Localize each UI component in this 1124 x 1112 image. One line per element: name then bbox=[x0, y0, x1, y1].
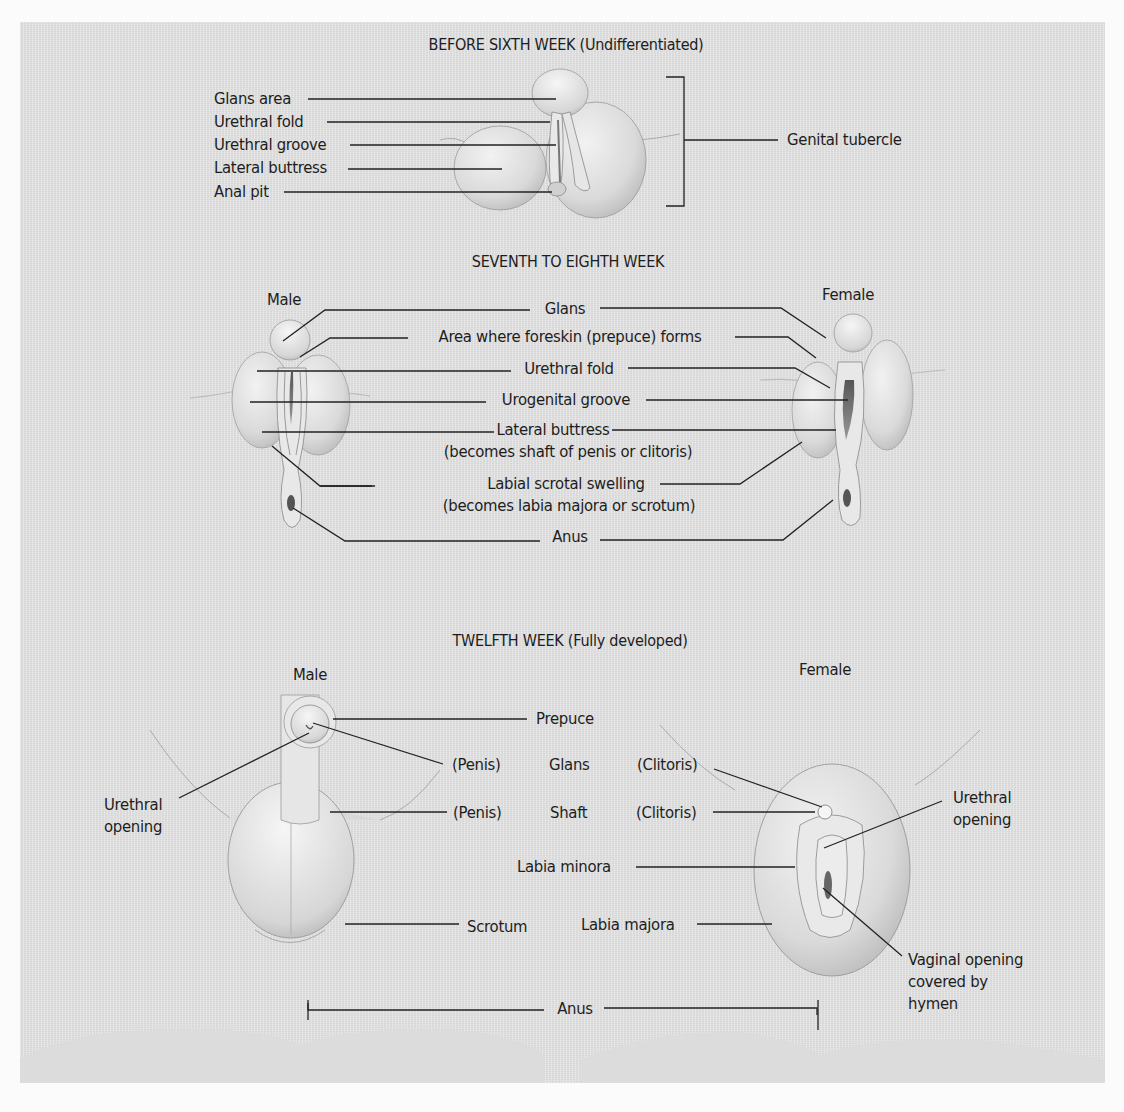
label-vaginal-opening-line1: Vaginal opening bbox=[908, 949, 1023, 971]
label-vaginal-opening-line3: hymen bbox=[908, 993, 1023, 1015]
label-male-twelfth: Male bbox=[293, 666, 327, 684]
label-urethral-opening-male-line2: opening bbox=[104, 816, 162, 838]
seventh-week-male-illustration bbox=[190, 320, 370, 528]
label-vaginal-opening-line2: covered by bbox=[908, 971, 1023, 993]
label-female-seventh: Female bbox=[822, 286, 874, 304]
section-title-undifferentiated: BEFORE SIXTH WEEK (Undifferentiated) bbox=[429, 36, 704, 54]
label-labial-scrotal-note: (becomes labia majora or scrotum) bbox=[443, 497, 695, 515]
twelfth-week-male-illustration bbox=[20, 695, 545, 1083]
label-anal-pit: Anal pit bbox=[214, 183, 269, 201]
label-vaginal-opening: Vaginal opening covered by hymen bbox=[908, 949, 1023, 1015]
label-lateral-buttress-seventh: Lateral buttress bbox=[496, 421, 609, 439]
label-penis-shaft: (Penis) bbox=[453, 804, 502, 822]
label-glans-twelfth: Glans bbox=[549, 756, 590, 774]
undifferentiated-illustration bbox=[440, 69, 680, 218]
label-urethral-opening-female-line1: Urethral bbox=[953, 787, 1011, 809]
label-lateral-buttress: Lateral buttress bbox=[214, 159, 327, 177]
label-labia-majora: Labia majora bbox=[581, 916, 675, 934]
label-urethral-opening-male: Urethral opening bbox=[104, 794, 162, 838]
label-glans: Glans bbox=[545, 300, 586, 318]
label-shaft: Shaft bbox=[550, 804, 587, 822]
label-anus-twelfth: Anus bbox=[557, 1000, 593, 1018]
label-clitoris-glans: (Clitoris) bbox=[637, 756, 697, 774]
label-urethral-groove: Urethral groove bbox=[214, 136, 326, 154]
seventh-week-female-illustration bbox=[760, 314, 945, 526]
label-scrotum: Scrotum bbox=[467, 918, 527, 936]
label-labial-scrotal-swelling: Labial scrotal swelling bbox=[487, 475, 645, 493]
label-prepuce: Prepuce bbox=[536, 710, 594, 728]
label-male-seventh: Male bbox=[267, 291, 301, 309]
label-urethral-opening-female: Urethral opening bbox=[953, 787, 1011, 831]
label-urethral-opening-male-line1: Urethral bbox=[104, 794, 162, 816]
label-penis-glans: (Penis) bbox=[452, 756, 501, 774]
label-prepuce-area: Area where foreskin (prepuce) forms bbox=[439, 328, 702, 346]
diagram-artwork bbox=[0, 0, 1124, 1112]
label-urethral-fold-seventh: Urethral fold bbox=[524, 360, 613, 378]
label-genital-tubercle: Genital tubercle bbox=[787, 131, 902, 149]
section-title-twelfth: TWELFTH WEEK (Fully developed) bbox=[452, 632, 687, 650]
label-labia-minora: Labia minora bbox=[517, 858, 611, 876]
label-glans-area: Glans area bbox=[214, 90, 291, 108]
label-urogenital-groove: Urogenital groove bbox=[502, 391, 630, 409]
label-clitoris-shaft: (Clitoris) bbox=[636, 804, 696, 822]
label-anus-seventh: Anus bbox=[552, 528, 588, 546]
label-lateral-buttress-note: (becomes shaft of penis or clitoris) bbox=[444, 443, 692, 461]
label-urethral-opening-female-line2: opening bbox=[953, 809, 1011, 831]
section-title-seventh-eighth: SEVENTH TO EIGHTH WEEK bbox=[472, 253, 664, 271]
label-urethral-fold: Urethral fold bbox=[214, 113, 303, 131]
label-female-twelfth: Female bbox=[799, 661, 851, 679]
